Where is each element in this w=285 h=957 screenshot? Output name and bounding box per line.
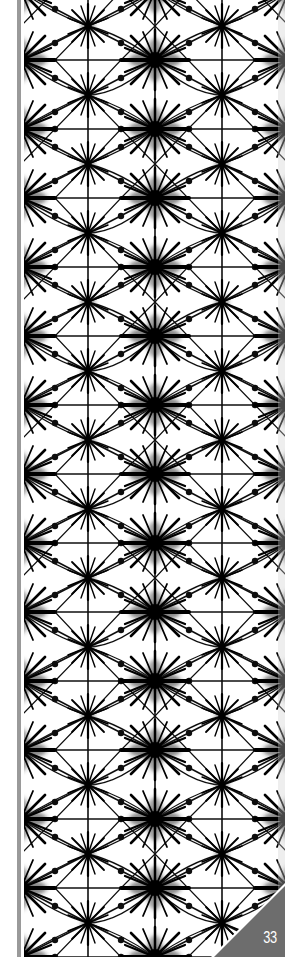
shibori-pattern xyxy=(24,0,285,957)
tie-dye-star-pattern xyxy=(24,0,285,957)
page-spine-stripe xyxy=(17,0,21,957)
page-corner-tab: 33 xyxy=(211,883,285,957)
book-page: 33 xyxy=(0,0,285,957)
page-number: 33 xyxy=(264,929,277,947)
